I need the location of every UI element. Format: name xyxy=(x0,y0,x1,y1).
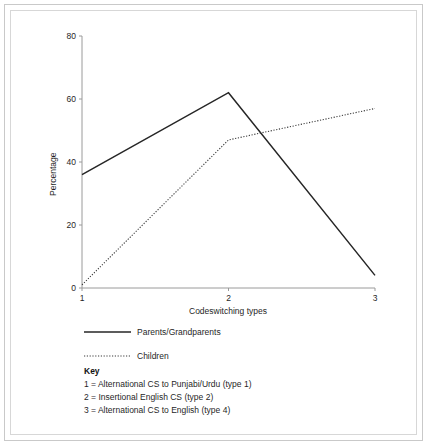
x-axis-tick-label: 2 xyxy=(219,294,239,303)
y-axis-tick-label: 60 xyxy=(60,95,76,104)
legend-sample-lines xyxy=(84,332,131,356)
legend-label-children: Children xyxy=(137,352,169,361)
series-line-children xyxy=(82,108,375,284)
chart-plot-area: 806040200 123 Percentage Codeswitching t… xyxy=(0,0,427,445)
key-line-2: 2 = Insertional English CS (type 2) xyxy=(84,393,213,402)
y-axis-tick-label: 80 xyxy=(60,32,76,41)
legend-label-parents-grandparents: Parents/Grandparents xyxy=(137,328,221,337)
y-axis-tick-label: 0 xyxy=(60,284,76,293)
y-axis-tick-label: 40 xyxy=(60,158,76,167)
y-axis-tick-label: 20 xyxy=(60,221,76,230)
x-axis-tick-label: 1 xyxy=(72,294,92,303)
x-axis-title: Codeswitching types xyxy=(189,307,267,316)
x-axis-tick-label: 3 xyxy=(365,294,385,303)
data-series-group xyxy=(82,93,375,285)
y-axis-title: Percentage xyxy=(48,153,58,196)
key-heading: Key xyxy=(84,367,100,376)
figure-root: 806040200 123 Percentage Codeswitching t… xyxy=(0,0,427,445)
series-line-parents-grandparents xyxy=(82,93,375,276)
key-line-1: 1 = Alternational CS to Punjabi/Urdu (ty… xyxy=(84,380,252,389)
key-line-3: 3 = Alternational CS to English (type 4) xyxy=(84,406,230,415)
